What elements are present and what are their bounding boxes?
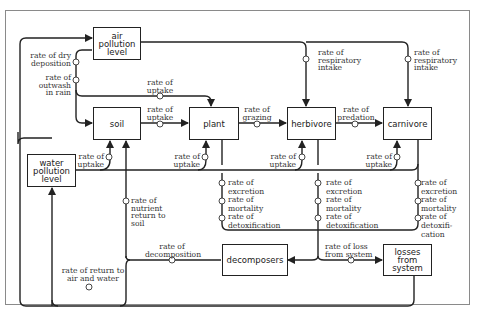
label-water-carnivore-uptake: rate of uptake bbox=[364, 153, 392, 168]
node-decomposers: decomposers bbox=[222, 244, 288, 276]
node-decomposers-label: decomposers bbox=[227, 256, 284, 264]
label-decomposition: rate of decomposition bbox=[145, 243, 199, 258]
label-water-plant-uptake: rate of uptake bbox=[172, 153, 200, 168]
node-carnivore-label: carnivore bbox=[388, 120, 428, 128]
label-carnivore-losses: rate of excretion rate of mortality rate… bbox=[421, 179, 457, 239]
label-loss-from-system: rate of loss from system bbox=[325, 243, 372, 258]
node-losses: losses from system bbox=[383, 244, 432, 276]
node-plant: plant bbox=[189, 107, 239, 140]
node-herbivore-label: herbivore bbox=[291, 120, 332, 128]
node-carnivore: carnivore bbox=[383, 107, 432, 140]
node-water-pollution-label: water pollution level bbox=[33, 159, 70, 183]
label-water-herbivore-uptake: rate of uptake bbox=[268, 153, 296, 168]
node-water-pollution: water pollution level bbox=[27, 154, 76, 187]
label-soil-plant-uptake: rate of uptake bbox=[143, 106, 177, 121]
label-plant-losses: rate of excretion rate of mortality rate… bbox=[228, 179, 280, 231]
label-water-soil-uptake: rate of uptake bbox=[76, 153, 104, 168]
label-nutrient-return: rate of nutrient return to soil bbox=[131, 197, 166, 227]
node-losses-label: losses from system bbox=[392, 248, 423, 272]
node-air-pollution-label: air pollution level bbox=[99, 32, 136, 56]
node-soil-label: soil bbox=[110, 120, 124, 128]
label-dry-deposition: rate of dry deposition bbox=[28, 52, 71, 67]
node-air-pollution: air pollution level bbox=[93, 27, 141, 60]
label-respiratory-herbivore: rate of respiratory intake bbox=[318, 49, 361, 72]
label-predation: rate of predation bbox=[336, 106, 376, 121]
label-herbivore-losses: rate of excretion rate of mortality rate… bbox=[326, 179, 378, 231]
node-herbivore: herbivore bbox=[287, 107, 336, 140]
node-plant-label: plant bbox=[203, 120, 225, 128]
label-air-plant-uptake: rate of uptake bbox=[143, 79, 177, 94]
node-soil: soil bbox=[93, 107, 141, 140]
label-outwash: rate of outwash in rain bbox=[28, 74, 71, 97]
label-respiratory-carnivore: rate of respiratory intake bbox=[414, 49, 457, 72]
label-return-air-water: rate of return to air and water bbox=[60, 267, 126, 282]
label-grazing: rate of grazing bbox=[240, 106, 274, 121]
